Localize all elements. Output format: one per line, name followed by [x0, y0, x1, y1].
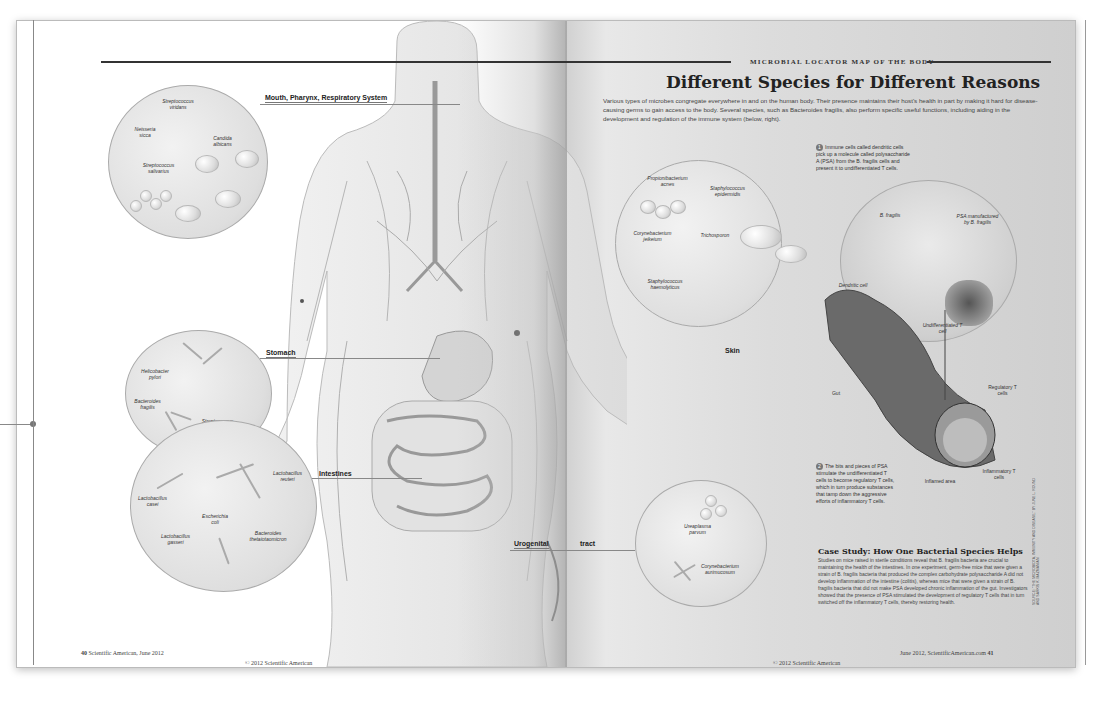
ureaplasma-cell: [705, 495, 717, 507]
label-corynebacterium-aurimucosum: Corynebacterium aurimucosum: [695, 563, 745, 575]
candida-cell: [215, 190, 241, 208]
section-label-urogenital: Urogenital: [514, 540, 549, 549]
label-gut: Gut: [826, 390, 846, 396]
section-label-stomach: Stomach: [266, 349, 296, 358]
label-streptococcus-viridans: Streptococcus viridans: [158, 98, 198, 110]
side-marker-line: [0, 424, 33, 425]
right-page-edge: [1085, 20, 1086, 665]
right-folio-text: June 2012, ScientificAmerican.com: [900, 650, 986, 656]
right-copyright: © 2012 Scientific American: [773, 660, 840, 666]
candida-cell: [175, 205, 201, 222]
left-page-edge: [33, 20, 34, 665]
left-copyright: © 2012 Scientific American: [245, 660, 312, 666]
label-staphylococcus-haemolyticus: Staphylococcus haemolyticus: [640, 278, 690, 290]
label-lactobacillus-casei: Lactobacillus casei: [135, 495, 170, 507]
candida-cell: [235, 150, 259, 168]
human-body-illustration: [247, 21, 627, 667]
label-regulatory-t-cells: Regulatory T cells: [985, 384, 1020, 396]
label-inflammatory-t-cells: Inflammatory T cells: [980, 468, 1018, 480]
streptococcus-cluster: [130, 200, 142, 212]
label-trichosporon: Trichosporon: [695, 232, 735, 238]
step-2-number: 2: [816, 463, 823, 470]
illustration-credit: SOURCE: "THE MICROBIOTA, IMMUNITY AND DI…: [1032, 475, 1040, 605]
label-propionibacterium-acnes: Propionibacterium acnes: [645, 175, 690, 187]
step-1-body: Immune cells called dendritic cells pick…: [816, 144, 910, 171]
case-study-body: Studies on mice raised in sterile condit…: [818, 557, 1028, 606]
label-streptococcus-salivarius: Streptococcus salivarius: [136, 162, 181, 174]
step-2-text: 2The bits and pieces of PSA stimulate th…: [816, 463, 898, 505]
label-candida-albicans: Candida albicans: [205, 135, 240, 147]
right-page-number: 41: [987, 650, 993, 656]
left-page-number: 40: [81, 650, 87, 656]
label-lactobacillus-reuteri: Lactobacillus reuteri: [270, 470, 305, 482]
trichosporon-cell: [740, 225, 782, 249]
label-helicobacter-pylori: Helicobacter pylori: [135, 368, 175, 380]
propionibacterium-cell: [655, 205, 671, 219]
ureaplasma-cell: [715, 505, 727, 517]
left-folio-text: Scientific American, June 2012: [89, 650, 164, 656]
streptococcus-cluster: [150, 198, 162, 210]
ureaplasma-cell: [700, 508, 712, 520]
step-2-body: The bits and pieces of PSA stimulate the…: [816, 463, 894, 504]
mouth-leader-line: [260, 104, 460, 105]
left-folio: 40 Scientific American, June 2012: [81, 650, 164, 656]
top-rule-right: [927, 61, 1051, 63]
urogenital-microbe-circle: [635, 480, 767, 607]
trichosporon-cell: [775, 245, 807, 263]
section-kicker: Microbial Locator Map of the Body: [750, 58, 935, 66]
step-1-text: 1Immune cells called dendritic cells pic…: [816, 144, 911, 172]
urogenital-leader-line: [510, 550, 635, 551]
label-lactobacillus-gasseri: Lactobacillus gasseri: [158, 533, 193, 545]
stomach-leader-line: [260, 358, 440, 359]
top-rule-left: [101, 61, 731, 63]
right-folio: June 2012, ScientificAmerican.com 41: [900, 650, 993, 656]
label-psa: PSA manufactured by B. fragilis: [955, 213, 1000, 225]
propionibacterium-cell: [640, 200, 656, 214]
section-label-tract: tract: [580, 540, 595, 548]
page-title: Different Species for Different Reasons: [666, 72, 1066, 92]
intestines-leader-line: [312, 478, 422, 479]
label-inflamed-area: Inflamed area: [920, 478, 960, 484]
section-label-skin: Skin: [725, 347, 740, 355]
label-staphylococcus-epidermidis: Staphylococcus epidermidis: [705, 185, 750, 197]
propionibacterium-cell: [670, 200, 686, 214]
case-study-title: Case Study: How One Bacterial Species He…: [818, 546, 1023, 556]
label-bacteroides-thetaiotaomicron: Bacteroides thetaiotaomicron: [243, 530, 293, 542]
label-neisseria-sicca: Neisseria sicca: [130, 126, 160, 138]
label-corynebacterium-jeikeium: Corynebacterium jeikeium: [630, 230, 675, 242]
label-bacteroides-fragilis: Bacteroides fragilis: [130, 398, 165, 410]
step-1-number: 1: [816, 144, 823, 151]
label-ureaplasma-parvum: Ureaplasma parvum: [680, 523, 715, 535]
streptococcus-cluster: [160, 190, 172, 202]
gut-illustration: [815, 270, 1025, 480]
label-b-fragilis: B. fragilis: [875, 212, 905, 218]
candida-cell: [195, 155, 219, 173]
section-label-mouth: Mouth, Pharynx, Respiratory System: [265, 94, 387, 103]
intro-paragraph: Various types of microbes congregate eve…: [603, 96, 1043, 123]
label-escherichia-coli: Escherichia coli: [200, 513, 230, 525]
